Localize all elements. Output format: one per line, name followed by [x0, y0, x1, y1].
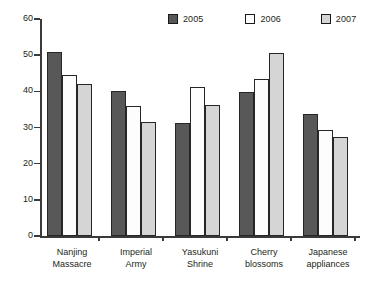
y-tick-label-50: 50 — [9, 50, 33, 59]
x-label-4: Japaneseappliances — [296, 246, 360, 270]
bar-2005-0 — [47, 52, 62, 236]
bar-2005-4 — [303, 114, 318, 236]
bar-2006-2 — [190, 87, 205, 236]
bar-2007-0 — [77, 84, 92, 236]
bar-2006-4 — [318, 130, 333, 236]
y-tick-label-10: 10 — [9, 195, 33, 204]
bar-chart: 2005 2006 2007 0102030405060 NanjingMass… — [0, 0, 367, 283]
x-tick-3 — [290, 236, 292, 241]
y-tick-label-20: 20 — [9, 159, 33, 168]
bar-2007-2 — [205, 105, 220, 236]
x-axis-labels: NanjingMassacreImperialArmyYasukuniShrin… — [40, 246, 360, 280]
bar-2005-3 — [239, 92, 254, 236]
bar-2006-0 — [62, 75, 77, 236]
bar-2005-2 — [175, 123, 190, 236]
x-label-2: YasukuniShrine — [168, 246, 232, 270]
y-tick-label-30: 30 — [9, 123, 33, 132]
x-label-line1: Cherry — [232, 246, 296, 258]
x-tick-2 — [226, 236, 228, 241]
x-label-line2: Army — [104, 258, 168, 270]
plot-area — [40, 19, 360, 236]
x-label-line1: Yasukuni — [168, 246, 232, 258]
bar-2005-1 — [111, 91, 126, 236]
bar-2007-3 — [269, 53, 284, 236]
x-label-1: ImperialArmy — [104, 246, 168, 270]
bar-group-4 — [296, 19, 360, 236]
x-label-line1: Imperial — [104, 246, 168, 258]
y-tick-label-0: 0 — [9, 231, 33, 240]
x-axis-line — [40, 236, 360, 238]
x-tick-0 — [98, 236, 100, 241]
bar-2006-3 — [254, 79, 269, 236]
bar-group-0 — [40, 19, 104, 236]
bar-2007-1 — [141, 122, 156, 236]
x-label-line2: appliances — [296, 258, 360, 270]
x-tick-1 — [162, 236, 164, 241]
bar-2006-1 — [126, 106, 141, 236]
bar-group-2 — [168, 19, 232, 236]
x-label-0: NanjingMassacre — [40, 246, 104, 270]
y-tick-label-40: 40 — [9, 86, 33, 95]
y-tick-label-60: 60 — [9, 14, 33, 23]
x-label-line1: Japanese — [296, 246, 360, 258]
x-label-line1: Nanjing — [40, 246, 104, 258]
bar-group-3 — [232, 19, 296, 236]
x-label-line2: Shrine — [168, 258, 232, 270]
bar-2007-4 — [333, 137, 348, 236]
x-label-line2: Massacre — [40, 258, 104, 270]
x-tick-4 — [354, 236, 356, 241]
bar-group-1 — [104, 19, 168, 236]
x-label-3: Cherryblossoms — [232, 246, 296, 270]
x-label-line2: blossoms — [232, 258, 296, 270]
